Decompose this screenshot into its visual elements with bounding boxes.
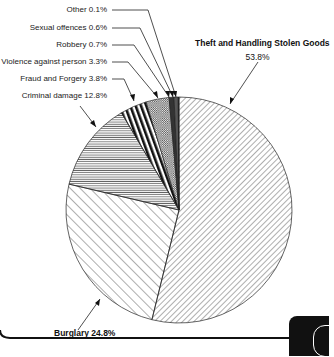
label-violence: Violence against person 3.3% (0, 57, 107, 66)
label-theft-name: Theft and Handling Stolen Goods (195, 38, 330, 48)
label-fraud: Fraud and Forgery 3.8% (0, 74, 107, 83)
label-burglary: Burglary 24.8% (54, 328, 115, 338)
label-sexual-offences: Sexual offences 0.6% (0, 23, 107, 32)
page-tab-ring (313, 325, 334, 357)
label-criminal-damage: Criminal damage 12.8% (0, 91, 107, 100)
label-theft: Theft and Handling Stolen Goods 53.8% (195, 38, 320, 62)
label-other: Other 0.1% (0, 5, 107, 14)
label-robbery: Robbery 0.7% (0, 40, 107, 49)
label-theft-pct: 53.8% (195, 52, 320, 62)
pie-slices (66, 97, 292, 323)
frame-line (0, 330, 292, 338)
